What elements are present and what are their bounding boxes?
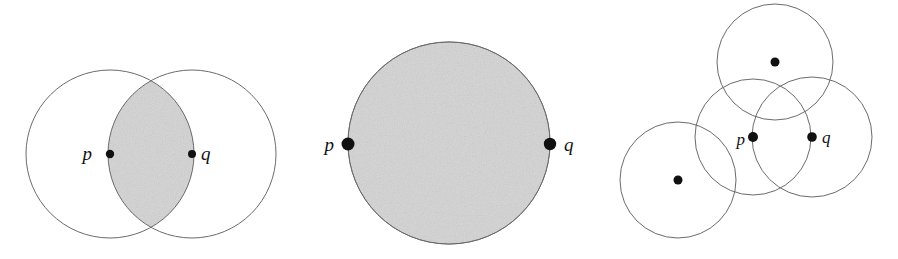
point-q-label: q xyxy=(564,134,574,155)
point-p-dot xyxy=(748,132,758,142)
panel-right: p q xyxy=(620,4,872,238)
circle-main-texture xyxy=(349,43,550,244)
point-p-label: p xyxy=(323,134,335,155)
figure-canvas: p q p q p q xyxy=(0,0,898,259)
point-q-dot xyxy=(544,138,556,150)
point-p-label: p xyxy=(736,130,746,149)
point-q-label: q xyxy=(822,128,831,147)
panel-middle: p q xyxy=(323,42,575,244)
point-top-center-dot xyxy=(771,58,780,67)
point-q-dot xyxy=(807,132,817,142)
point-q-label: q xyxy=(201,143,211,164)
panel-left: p q xyxy=(26,70,276,238)
point-p-label: p xyxy=(81,143,93,164)
point-q-dot xyxy=(188,150,196,158)
point-lower-left-center-dot xyxy=(674,176,683,185)
point-p-dot xyxy=(106,150,114,158)
figure-container: p q p q p q xyxy=(0,0,898,259)
point-p-dot xyxy=(342,138,355,151)
